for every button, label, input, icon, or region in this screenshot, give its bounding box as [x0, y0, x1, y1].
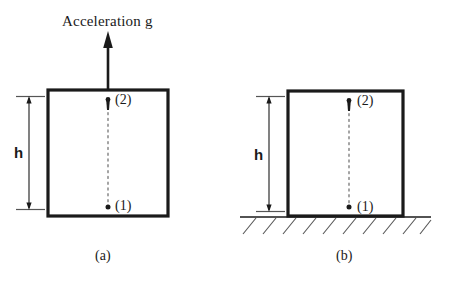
height-label-b: h	[254, 146, 263, 163]
panel-caption-b: (b)	[336, 248, 352, 264]
acceleration-arrow	[103, 31, 113, 90]
ground-hatching	[240, 217, 431, 234]
physics-diagram-figure: Acceleration g h (2) (1) (a) h (2) (1) (…	[0, 0, 449, 285]
point-1-dot-a	[106, 205, 111, 210]
acceleration-arrow-head	[103, 31, 113, 48]
container-box-b	[288, 91, 403, 216]
point-1-label-a: (1)	[115, 198, 131, 214]
dimension-arrowhead-bottom-a	[26, 203, 31, 211]
diagram-vector-layer	[0, 0, 449, 285]
ground-hatch-lines	[243, 218, 431, 234]
point-1-dot-b	[347, 205, 352, 210]
dimension-arrowhead-bottom-b	[266, 205, 271, 213]
dimension-arrowhead-top-b	[266, 96, 271, 104]
point-1-label-b: (1)	[357, 199, 373, 215]
point-2-marker-a	[106, 97, 111, 110]
point-2-dot-b	[347, 98, 352, 103]
dimension-line-b	[266, 96, 271, 212]
point-2-label-b: (2)	[357, 93, 373, 109]
point-2-dot-a	[106, 97, 111, 102]
height-label-a: h	[14, 144, 23, 161]
acceleration-title: Acceleration g	[62, 13, 153, 30]
panel-caption-a: (a)	[95, 248, 111, 264]
dimension-line-a	[26, 96, 31, 210]
dimension-arrowhead-top-a	[26, 96, 31, 104]
point-2-label-a: (2)	[115, 92, 131, 108]
point-2-marker-b	[347, 98, 352, 111]
